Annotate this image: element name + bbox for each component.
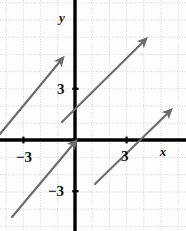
coordinate-plane-figure: −3 3 3 −3 y x (0, 0, 186, 231)
x-axis-tick-label-negative-three: −3 (16, 149, 32, 165)
y-axis-tick-label-three: 3 (57, 81, 65, 97)
y-axis-name-label: y (57, 10, 65, 25)
x-axis-tick-label-three: 3 (121, 148, 129, 164)
x-axis-name-label: x (159, 144, 167, 159)
coordinate-plane-svg: −3 3 3 −3 y x (0, 0, 186, 231)
figure-background (0, 0, 186, 231)
y-axis-tick-label-negative-three: −3 (48, 183, 64, 199)
